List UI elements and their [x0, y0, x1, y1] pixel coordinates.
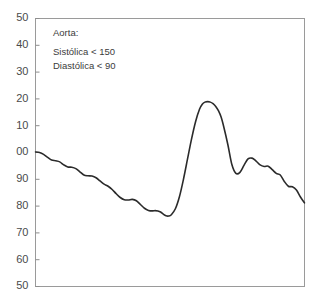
y-tick-label: 40	[16, 38, 28, 50]
chart-background	[0, 0, 319, 299]
y-tick-label: 70	[16, 226, 28, 238]
y-tick-label: 10	[16, 119, 28, 131]
chart-canvas: 5040302010009080706050 Aorta: Sistólica …	[0, 0, 319, 299]
y-tick-label: 60	[16, 253, 28, 265]
annotation-diastolic: Diastólica < 90	[53, 60, 116, 71]
y-tick-label: 80	[16, 199, 28, 211]
y-tick-label: 50	[16, 11, 28, 23]
aorta-pressure-chart: 5040302010009080706050 Aorta: Sistólica …	[0, 0, 319, 299]
y-tick-label: 20	[16, 92, 28, 104]
y-tick-label: 90	[16, 172, 28, 184]
y-tick-label: 50	[16, 279, 28, 291]
y-tick-label: 00	[16, 145, 28, 157]
y-tick-label: 30	[16, 65, 28, 77]
annotation-systolic: Sistólica < 150	[53, 46, 115, 57]
annotation-title: Aorta:	[53, 27, 78, 38]
